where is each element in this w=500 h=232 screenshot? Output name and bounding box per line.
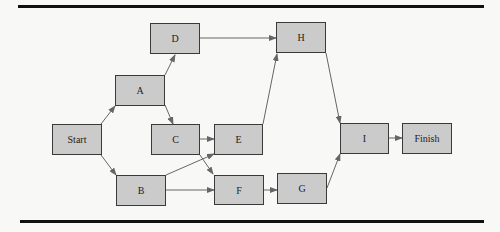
node-b: B — [116, 175, 166, 206]
node-h: H — [276, 22, 326, 53]
edge-start-a — [101, 106, 115, 124]
edge-a-d — [165, 55, 175, 75]
edge-h-i — [326, 53, 340, 123]
edge-a-c — [165, 105, 173, 124]
node-e: E — [214, 124, 263, 155]
node-a: A — [115, 75, 165, 106]
bottom-rule — [20, 220, 484, 223]
edge-c-f — [200, 155, 213, 174]
node-f: F — [214, 175, 264, 205]
diagram-canvas: Start A B C D E F G H I Finish — [0, 0, 500, 232]
edge-g-i — [327, 154, 340, 188]
edge-e-h — [263, 54, 277, 124]
node-start: Start — [52, 124, 102, 155]
node-i: I — [340, 123, 389, 154]
node-c: C — [151, 124, 200, 155]
node-g: G — [277, 173, 327, 204]
node-d: D — [150, 23, 200, 54]
edge-start-b — [101, 155, 116, 175]
node-finish: Finish — [402, 123, 452, 154]
